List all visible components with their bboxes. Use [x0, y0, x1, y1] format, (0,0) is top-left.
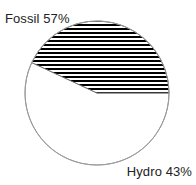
pie-chart: Fossil 57% Hydro 43%: [0, 0, 196, 185]
slice-label-hydro: Hydro 43%: [127, 165, 192, 178]
slice-label-fossil: Fossil 57%: [5, 12, 70, 25]
pie-chart-graphic: [0, 0, 196, 185]
